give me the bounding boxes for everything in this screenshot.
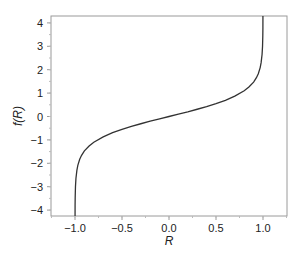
chart: −1.0−0.50.00.51.0 −4−3−2−101234 R f(R) (0, 0, 302, 257)
y-axis-label: f(R) (11, 106, 25, 126)
y-tick-label: 1 (37, 87, 43, 99)
y-tick-label: −2 (30, 157, 43, 169)
y-tick-label: 2 (37, 64, 43, 76)
y-tick-label: 4 (37, 17, 43, 29)
x-tick-label: 0.5 (208, 222, 223, 234)
data-line (75, 16, 263, 216)
y-tick-label: −3 (30, 181, 43, 193)
x-tick-label: −1.0 (64, 222, 86, 234)
x-tick-label: 1.0 (255, 222, 270, 234)
x-tick-label: 0.0 (161, 222, 176, 234)
y-axis-ticks: −4−3−2−101234 (30, 17, 51, 216)
x-tick-label: −0.5 (111, 222, 133, 234)
x-axis-label: R (165, 234, 174, 248)
y-tick-label: −1 (30, 134, 43, 146)
y-tick-label: 3 (37, 40, 43, 52)
y-tick-label: −4 (30, 204, 43, 216)
x-axis-ticks: −1.0−0.50.00.51.0 (52, 216, 287, 234)
y-tick-label: 0 (37, 111, 43, 123)
